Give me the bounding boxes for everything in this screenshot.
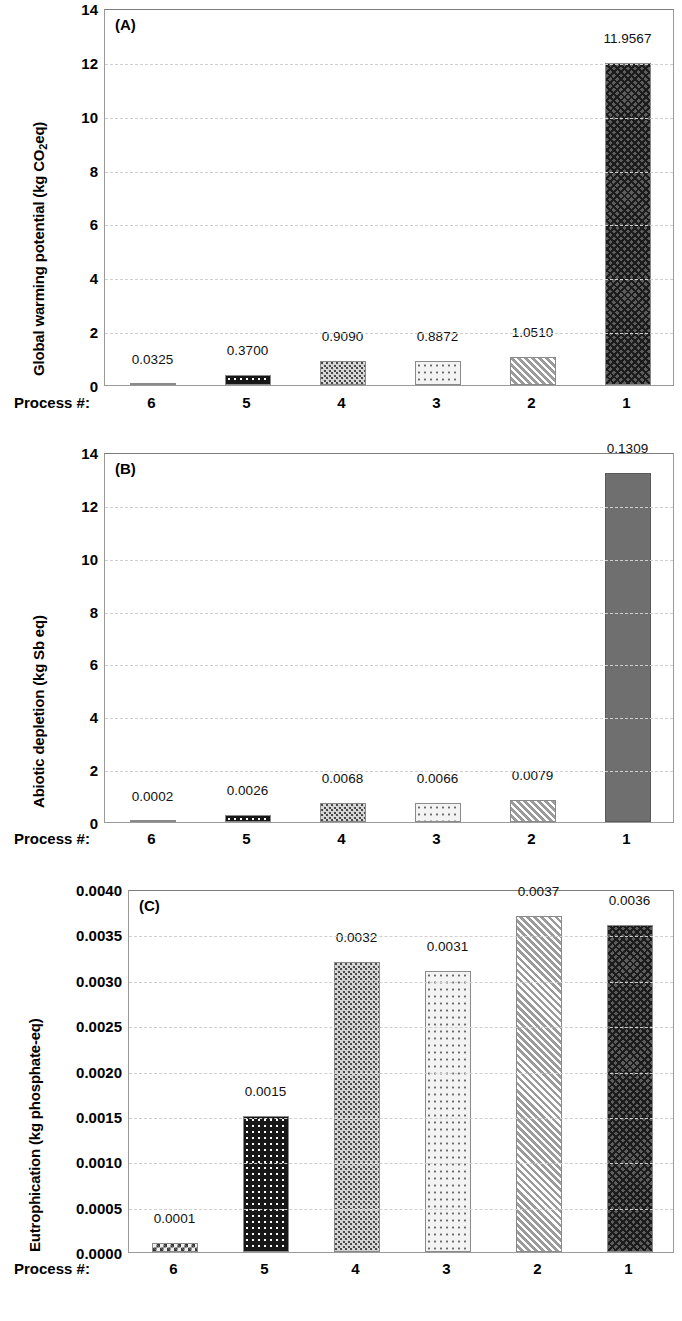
bar-group: 1.0510 <box>510 10 556 385</box>
bar[interactable] <box>152 1243 198 1252</box>
bar-value-label: 0.0015 <box>245 1084 286 1099</box>
bar-group: 0.0015 <box>243 891 289 1252</box>
bar[interactable] <box>516 916 562 1252</box>
gridline <box>129 1027 673 1028</box>
y-tick-label: 0.0015 <box>76 1109 122 1124</box>
panel-c-x-axis-title: Process #: <box>14 1260 90 1277</box>
bar[interactable] <box>130 383 176 385</box>
y-tick-label: 12 <box>81 498 98 513</box>
panel-c-plot-area: (C) 0.00010.00150.00320.00310.00370.0036 <box>128 890 674 1253</box>
bar[interactable] <box>415 803 461 822</box>
panel-a-x-axis-title: Process #: <box>14 394 90 411</box>
x-tick-label: 6 <box>169 1260 177 1277</box>
gridline <box>105 279 673 280</box>
y-tick-label: 14 <box>81 2 98 17</box>
chart-panel-a: Global warming potential (kg CO2eq) 0246… <box>0 0 682 430</box>
panel-c-y-tick-labels: 0.00000.00050.00100.00150.00200.00250.00… <box>0 866 122 1321</box>
bar-value-label: 0.0036 <box>609 893 650 908</box>
bar-group: 0.1309 <box>605 454 651 822</box>
gridline <box>105 507 673 508</box>
x-tick-label: 5 <box>242 830 250 847</box>
bar-group: 0.0032 <box>334 891 380 1252</box>
bar-value-label: 0.3700 <box>227 343 268 358</box>
gridline <box>105 172 673 173</box>
panel-b-x-axis-title: Process #: <box>14 830 90 847</box>
x-tick-label: 2 <box>533 1260 541 1277</box>
bar[interactable] <box>510 357 556 385</box>
y-tick-label: 0.0025 <box>76 1019 122 1034</box>
x-tick-label: 1 <box>624 1260 632 1277</box>
gridline <box>105 64 673 65</box>
bar[interactable] <box>320 361 366 385</box>
panel-c-bars: 0.00010.00150.00320.00310.00370.0036 <box>129 891 673 1252</box>
gridline <box>105 665 673 666</box>
y-tick-label: 14 <box>81 446 98 461</box>
panel-a-y-tick-labels: 02468101214 <box>0 0 98 430</box>
x-tick-label: 1 <box>622 830 630 847</box>
x-tick-label: 3 <box>432 394 440 411</box>
bar[interactable] <box>225 375 271 385</box>
bar-group: 11.9567 <box>605 10 651 385</box>
panel-b-bars: 0.00020.00260.00680.00660.00790.1309 <box>105 454 673 822</box>
bar-value-label: 0.0079 <box>512 768 553 783</box>
bar-group: 0.0002 <box>130 454 176 822</box>
gridline <box>129 1163 673 1164</box>
bar-group: 0.0066 <box>415 454 461 822</box>
panel-b-plot-area: (B) 0.00020.00260.00680.00660.00790.1309 <box>104 453 674 823</box>
bar[interactable] <box>605 63 651 385</box>
gridline <box>129 936 673 937</box>
bar[interactable] <box>320 803 366 822</box>
gridline <box>129 1118 673 1119</box>
bar-value-label: 0.0037 <box>518 884 559 899</box>
bar[interactable] <box>605 473 651 822</box>
y-tick-label: 0.0035 <box>76 928 122 943</box>
x-tick-label: 2 <box>527 394 535 411</box>
bar-value-label: 0.9090 <box>322 329 363 344</box>
bar[interactable] <box>225 815 271 822</box>
bar-value-label: 0.1309 <box>607 441 648 456</box>
y-tick-label: 0.0005 <box>76 1200 122 1215</box>
gridline <box>105 771 673 772</box>
bar[interactable] <box>607 925 653 1252</box>
bar[interactable] <box>510 800 556 822</box>
bar[interactable] <box>415 361 461 385</box>
x-tick-label: 2 <box>527 830 535 847</box>
y-tick-label: 4 <box>90 271 98 286</box>
bar-value-label: 0.0031 <box>427 939 468 954</box>
y-tick-label: 6 <box>90 657 98 672</box>
gridline <box>105 333 673 334</box>
chart-panel-b: Abiotic depletion (kg Sb eq) 02468101214… <box>0 430 682 866</box>
x-tick-label: 1 <box>622 394 630 411</box>
panel-a-x-axis: Process #: 654321 <box>0 392 682 418</box>
y-tick-label: 8 <box>90 163 98 178</box>
gridline <box>105 560 673 561</box>
bar-group: 0.8872 <box>415 10 461 385</box>
panel-b-x-axis: Process #: 654321 <box>0 828 682 854</box>
x-tick-label: 6 <box>147 394 155 411</box>
panel-c-x-axis: Process #: 654321 <box>0 1258 682 1284</box>
y-tick-label: 10 <box>81 551 98 566</box>
y-tick-label: 8 <box>90 604 98 619</box>
bar-group: 0.0036 <box>607 891 653 1252</box>
x-tick-label: 3 <box>442 1260 450 1277</box>
gridline <box>129 1209 673 1210</box>
y-tick-label: 2 <box>90 763 98 778</box>
x-tick-label: 4 <box>337 394 345 411</box>
x-tick-label: 4 <box>337 830 345 847</box>
y-tick-label: 10 <box>81 109 98 124</box>
panel-b-y-tick-labels: 02468101214 <box>0 430 98 866</box>
bar[interactable] <box>243 1116 289 1252</box>
gridline <box>105 718 673 719</box>
y-tick-label: 0.0030 <box>76 973 122 988</box>
bar-value-label: 11.9567 <box>604 31 652 46</box>
chart-panel-c: Eutrophication (kg phosphate-eq) 0.00000… <box>0 866 682 1321</box>
bar-value-label: 0.0026 <box>227 783 268 798</box>
panel-a-plot-area: (A) 0.03250.37000.90900.88721.051011.956… <box>104 9 674 386</box>
bar[interactable] <box>130 820 176 822</box>
bar-group: 0.0031 <box>425 891 471 1252</box>
bar[interactable] <box>425 971 471 1252</box>
x-tick-label: 3 <box>432 830 440 847</box>
panel-a-bars: 0.03250.37000.90900.88721.051011.9567 <box>105 10 673 385</box>
x-tick-label: 5 <box>260 1260 268 1277</box>
x-tick-label: 6 <box>147 830 155 847</box>
